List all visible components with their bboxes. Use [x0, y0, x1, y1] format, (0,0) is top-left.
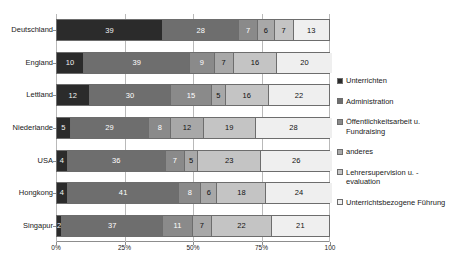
bar-segment-value: 2: [57, 222, 61, 230]
bar-segment[interactable]: 5: [212, 85, 226, 105]
bar-segment[interactable]: 5: [185, 151, 199, 171]
bar-segment[interactable]: 4: [57, 151, 68, 171]
bar-segment[interactable]: 39: [57, 20, 163, 40]
legend-label: Öffentlichkeitsarbeit u. Fundraising: [346, 117, 449, 136]
bar-segment[interactable]: 37: [62, 216, 163, 236]
chart-legend: UnterrichtenAdministrationÖffentlichkeit…: [337, 76, 449, 218]
bar-segment-value: 13: [307, 27, 316, 35]
bar-segment[interactable]: 19: [204, 118, 256, 138]
bar-segment-value: 4: [60, 157, 64, 165]
bar-segment[interactable]: 22: [212, 216, 272, 236]
bar-row[interactable]: 392876713: [56, 19, 330, 41]
legend-label: Unterrichtsbezogene Führung: [346, 198, 445, 208]
bar-segment[interactable]: 11: [163, 216, 193, 236]
bar-row[interactable]: 2371172221: [56, 215, 330, 237]
bar-segment[interactable]: 39: [84, 53, 190, 73]
y-axis-category-label: Niederlande: [0, 124, 53, 132]
bar-segment[interactable]: 7: [193, 216, 212, 236]
bar-segment-value: 6: [207, 189, 211, 197]
bar-segment[interactable]: 30: [90, 85, 172, 105]
bar-segment-value: 8: [158, 124, 162, 132]
legend-label: anderes: [346, 147, 373, 157]
y-axis-category-label: Deutschland: [0, 26, 53, 34]
bar-segment[interactable]: 10: [57, 53, 84, 73]
bar-segment[interactable]: 28: [163, 20, 239, 40]
bar-segment-value: 5: [189, 157, 193, 165]
bar-segment[interactable]: 36: [68, 151, 166, 171]
bar-segment[interactable]: 6: [258, 20, 274, 40]
bar-segment-value: 22: [295, 92, 304, 100]
bar-row[interactable]: 436752326: [56, 150, 330, 172]
bar-segment-value: 36: [112, 157, 121, 165]
legend-item[interactable]: Administration: [337, 97, 449, 107]
bar-segment-value: 5: [216, 92, 220, 100]
x-axis-tick-label: 0%: [51, 245, 60, 252]
bar-segment[interactable]: 9: [190, 53, 214, 73]
legend-item[interactable]: Öffentlichkeitsarbeit u. Fundraising: [337, 117, 449, 136]
bar-segment-value: 9: [200, 59, 204, 67]
bar-segment-value: 39: [105, 27, 114, 35]
y-axis-category-label: Hongkong: [0, 189, 53, 197]
x-axis-tick-label: 25%: [118, 245, 131, 252]
bar-segment-value: 7: [200, 222, 204, 230]
bar-segment-value: 37: [108, 222, 117, 230]
bar-segment[interactable]: 4: [57, 183, 68, 203]
bar-segment-value: 41: [119, 189, 128, 197]
bar-segment-value: 6: [264, 27, 268, 35]
bar-segment-value: 20: [300, 59, 309, 67]
bar-segment[interactable]: 12: [171, 118, 204, 138]
bar-segment-value: 7: [246, 27, 250, 35]
bar-segment-value: 19: [225, 124, 234, 132]
x-axis-tick-labels: 0%25%50%75%100: [56, 245, 330, 257]
bar-segment[interactable]: 8: [179, 183, 201, 203]
bar-row[interactable]: 5298121928: [56, 117, 330, 139]
bar-segment[interactable]: 26: [261, 151, 332, 171]
bar-segment-value: 23: [225, 157, 234, 165]
bar-segment-value: 22: [237, 222, 246, 230]
bar-segment[interactable]: 23: [198, 151, 261, 171]
bar-row[interactable]: 12301551622: [56, 84, 330, 106]
legend-item[interactable]: Lehrersupervision u. -evaluation: [337, 168, 449, 187]
y-axis-category-labels: DeutschlandEnglandLettlandNiederlandeUSA…: [0, 14, 53, 242]
y-axis-category-label: USA: [0, 157, 53, 165]
bar-segment[interactable]: 7: [239, 20, 258, 40]
bar-segment[interactable]: 28: [256, 118, 332, 138]
bar-segment[interactable]: 29: [71, 118, 150, 138]
bar-segment-value: 30: [126, 92, 135, 100]
bar-segment[interactable]: 8: [149, 118, 171, 138]
bar-segment-value: 8: [188, 189, 192, 197]
bar-segment[interactable]: 12: [57, 85, 90, 105]
legend-swatch-icon: [337, 119, 343, 125]
bar-segment-value: 28: [196, 27, 205, 35]
legend-label: Lehrersupervision u. -evaluation: [346, 168, 449, 187]
bar-segment-value: 15: [187, 92, 196, 100]
bar-segment[interactable]: 24: [266, 183, 331, 203]
legend-item[interactable]: Unterrichtsbezogene Führung: [337, 198, 449, 208]
bar-segment[interactable]: 7: [215, 53, 234, 73]
bar-segment[interactable]: 7: [166, 151, 185, 171]
y-axis-category-label: Singapur: [0, 222, 53, 230]
bar-segment[interactable]: 5: [57, 118, 71, 138]
bar-segment[interactable]: 21: [272, 216, 329, 236]
bar-segment[interactable]: 22: [269, 85, 329, 105]
legend-label: Unterrichten: [346, 76, 387, 86]
bar-segment[interactable]: 13: [294, 20, 329, 40]
bar-row[interactable]: 441861824: [56, 182, 330, 204]
bar-segment-value: 29: [105, 124, 114, 132]
stacked-bar-chart: DeutschlandEnglandLettlandNiederlandeUSA…: [0, 0, 449, 263]
bar-segment[interactable]: 7: [275, 20, 294, 40]
x-axis-tick-label: 100: [325, 245, 336, 252]
bar-segment[interactable]: 16: [234, 53, 278, 73]
bar-segment-value: 4: [60, 189, 64, 197]
bar-segment[interactable]: 20: [277, 53, 331, 73]
legend-item[interactable]: anderes: [337, 147, 449, 157]
bar-segment-value: 26: [292, 157, 301, 165]
bar-row[interactable]: 1039971620: [56, 52, 330, 74]
bar-segment[interactable]: 18: [217, 183, 266, 203]
bar-segment[interactable]: 15: [171, 85, 212, 105]
legend-item[interactable]: Unterrichten: [337, 76, 449, 86]
bar-segment[interactable]: 41: [68, 183, 180, 203]
bar-segment[interactable]: 16: [226, 85, 270, 105]
bar-segment[interactable]: 6: [201, 183, 217, 203]
bar-segment-value: 7: [281, 27, 285, 35]
